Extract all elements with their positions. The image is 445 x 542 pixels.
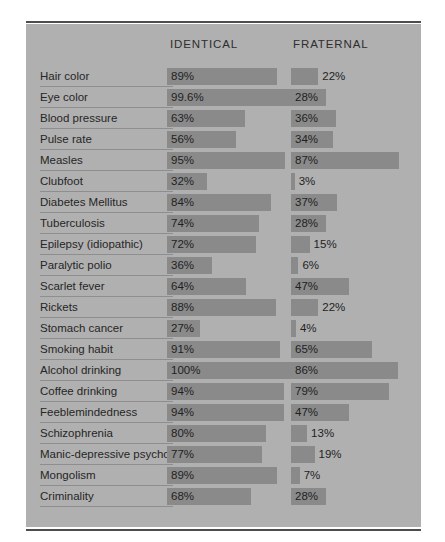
bar-value-fraternal: 28% [295, 91, 318, 104]
chart-row: Hair color89%22% [26, 67, 421, 88]
chart-page: IDENTICAL FRATERNAL Hair color89%22%Eye … [0, 0, 445, 542]
bar-value-fraternal: 86% [295, 364, 318, 377]
bar-value-fraternal: 13% [311, 427, 334, 440]
bar-fraternal [291, 68, 318, 85]
chart-row: Coffee drinking94%79% [26, 382, 421, 403]
bar-group-identical: 32% [167, 173, 291, 190]
chart-row: Rickets88%22% [26, 298, 421, 319]
row-label: Criminality [40, 489, 182, 503]
chart-row: Diabetes Mellitus84%37% [26, 193, 421, 214]
bar-group-fraternal: 28% [291, 215, 415, 232]
row-underline [40, 149, 173, 150]
row-label: Measles [40, 153, 182, 167]
bar-value-fraternal: 28% [295, 217, 318, 230]
bar-group-identical: 94% [167, 383, 291, 400]
bar-fraternal [291, 320, 296, 337]
bar-group-identical: 100% [167, 362, 291, 379]
row-label: Hair color [40, 69, 182, 83]
chart-row: Pulse rate56%34% [26, 130, 421, 151]
bar-value-fraternal: 36% [295, 112, 318, 125]
bar-group-identical: 80% [167, 425, 291, 442]
bar-group-identical: 72% [167, 236, 291, 253]
bar-value-fraternal: 47% [295, 406, 318, 419]
bar-value-identical: 100% [171, 364, 200, 377]
row-underline [40, 464, 173, 465]
row-label: Tuberculosis [40, 216, 182, 230]
bar-value-identical: 84% [171, 196, 194, 209]
bar-group-fraternal: 86% [291, 362, 415, 379]
bar-group-identical: 64% [167, 278, 291, 295]
bar-value-identical: 89% [171, 469, 194, 482]
bar-value-identical: 89% [171, 70, 194, 83]
bar-value-identical: 99.6% [171, 91, 204, 104]
bar-group-fraternal: 47% [291, 278, 415, 295]
bar-group-identical: 88% [167, 299, 291, 316]
row-label: Clubfoot [40, 174, 182, 188]
row-underline [40, 359, 173, 360]
bar-value-fraternal: 7% [304, 469, 321, 482]
bar-value-identical: 91% [171, 343, 194, 356]
bar-fraternal [291, 425, 307, 442]
bar-value-identical: 32% [171, 175, 194, 188]
row-underline [40, 233, 173, 234]
row-underline [40, 275, 173, 276]
bar-value-fraternal: 3% [299, 175, 316, 188]
bar-value-fraternal: 47% [295, 280, 318, 293]
chart-row: Mongolism89%7% [26, 466, 421, 487]
bar-fraternal [291, 173, 295, 190]
chart-row: Manic-depressive psychosis77%19% [26, 445, 421, 466]
bar-value-identical: 74% [171, 217, 194, 230]
bar-value-identical: 56% [171, 133, 194, 146]
bar-fraternal [291, 236, 310, 253]
row-underline [40, 107, 173, 108]
row-label: Rickets [40, 300, 182, 314]
bar-group-fraternal: 34% [291, 131, 415, 148]
row-underline [40, 401, 173, 402]
bottom-divider-rule [26, 529, 421, 531]
bar-value-identical: 64% [171, 280, 194, 293]
row-underline [40, 170, 173, 171]
bar-value-fraternal: 65% [295, 343, 318, 356]
row-underline [40, 128, 173, 129]
bar-value-identical: 77% [171, 448, 194, 461]
row-label: Coffee drinking [40, 384, 182, 398]
bar-group-identical: 77% [167, 446, 291, 463]
bar-value-identical: 80% [171, 427, 194, 440]
bar-group-identical: 68% [167, 488, 291, 505]
bar-group-identical: 27% [167, 320, 291, 337]
bar-group-identical: 91% [167, 341, 291, 358]
chart-rows: Hair color89%22%Eye color99.6%28%Blood p… [26, 67, 421, 508]
row-label: Feeblemindedness [40, 405, 182, 419]
row-underline [40, 296, 173, 297]
row-underline [40, 422, 173, 423]
bar-group-identical: 56% [167, 131, 291, 148]
row-underline [40, 380, 173, 381]
bar-group-fraternal: 47% [291, 404, 415, 421]
chart-row: Clubfoot32%3% [26, 172, 421, 193]
bar-value-fraternal: 79% [295, 385, 318, 398]
chart-row: Feeblemindedness94%47% [26, 403, 421, 424]
chart-row: Tuberculosis74%28% [26, 214, 421, 235]
bar-group-identical: 94% [167, 404, 291, 421]
column-headers: IDENTICAL FRATERNAL [26, 38, 421, 56]
bar-value-identical: 94% [171, 406, 194, 419]
row-underline [40, 338, 173, 339]
bar-value-fraternal: 22% [322, 301, 345, 314]
bar-value-fraternal: 6% [302, 259, 319, 272]
row-label: Pulse rate [40, 132, 182, 146]
bar-group-fraternal: 3% [291, 173, 415, 190]
row-underline [40, 443, 173, 444]
chart-panel: IDENTICAL FRATERNAL Hair color89%22%Eye … [26, 24, 421, 527]
bar-value-fraternal: 28% [295, 490, 318, 503]
chart-row: Blood pressure63%36% [26, 109, 421, 130]
chart-row: Alcohol drinking100%86% [26, 361, 421, 382]
column-header-fraternal: FRATERNAL [293, 38, 369, 50]
bar-group-fraternal: 65% [291, 341, 415, 358]
bar-group-fraternal: 79% [291, 383, 415, 400]
bar-value-fraternal: 34% [295, 133, 318, 146]
top-divider-rule [26, 21, 421, 23]
bar-value-fraternal: 37% [295, 196, 318, 209]
chart-row: Measles95%87% [26, 151, 421, 172]
bar-value-identical: 72% [171, 238, 194, 251]
bar-group-fraternal: 7% [291, 467, 415, 484]
